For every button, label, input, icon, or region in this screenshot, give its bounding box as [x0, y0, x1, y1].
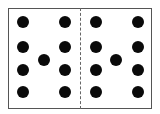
left-dot — [59, 64, 71, 76]
left-dot — [59, 16, 71, 28]
right-dot — [110, 54, 122, 66]
left-dot — [17, 16, 29, 28]
left-dot — [17, 41, 29, 53]
right-dot — [132, 16, 144, 28]
left-dot — [17, 64, 29, 76]
dashed-divider — [80, 8, 81, 109]
right-dot — [132, 86, 144, 98]
right-dot — [90, 16, 102, 28]
left-dot — [59, 86, 71, 98]
right-dot — [132, 41, 144, 53]
left-dot — [59, 41, 71, 53]
right-dot — [90, 41, 102, 53]
right-dot — [132, 64, 144, 76]
left-dot — [17, 86, 29, 98]
left-dot — [38, 54, 50, 66]
right-dot — [90, 64, 102, 76]
right-dot — [90, 86, 102, 98]
